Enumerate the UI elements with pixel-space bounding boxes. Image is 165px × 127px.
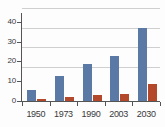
bar-series-2 [148,84,157,101]
x-tick-mark [160,102,161,106]
bar-chart: 010203040 19501973199020032030 [0,0,165,127]
y-tick-label: 40 [0,18,16,26]
y-tick-label: 20 [0,57,16,65]
y-tick-label: 30 [0,38,16,46]
bar-series-2 [37,99,46,101]
x-axis-line [21,101,160,102]
x-tick-label: 1950 [21,109,51,119]
x-tick-label: 1973 [48,109,78,119]
x-tick-mark [132,102,133,106]
bar-series-1 [27,90,36,101]
x-tick-label: 2030 [131,109,161,119]
x-tick-label: 1990 [76,109,106,119]
plot-area [22,14,160,101]
gridline [22,8,160,9]
bar-series-1 [55,76,64,101]
y-tick-label: 0 [0,97,16,105]
y-tick-label: 10 [0,77,16,85]
bar-series-1 [138,28,147,101]
x-tick-mark [50,102,51,106]
bar-series-1 [83,64,92,101]
x-tick-mark [77,102,78,106]
bar-series-2 [93,95,102,101]
bar-series-2 [120,94,129,102]
x-tick-mark [22,102,23,106]
bar-series-1 [110,56,119,101]
bar-series-2 [65,97,74,101]
x-tick-mark [105,102,106,106]
x-tick-label: 2003 [104,109,134,119]
